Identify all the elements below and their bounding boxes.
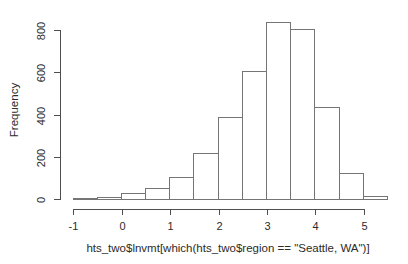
x-tick-label: 1 [167, 221, 173, 232]
histogram-figure: Frequency hts_two$lnvmt[which(hts_two$re… [0, 0, 408, 264]
histogram-bar [290, 29, 315, 200]
y-axis-line [60, 30, 61, 200]
y-tick-mark [54, 199, 60, 200]
histogram-bar [169, 177, 194, 200]
histogram-bar [73, 198, 98, 200]
histogram-bar [218, 117, 243, 200]
x-tick-mark [73, 209, 74, 215]
x-axis-title: hts_two$lnvmt[which(hts_two$region == "S… [86, 242, 369, 254]
y-tick-label: 600 [36, 63, 47, 81]
x-tick-label: 0 [119, 221, 125, 232]
histogram-bar [339, 173, 364, 200]
y-tick-label: 400 [36, 106, 47, 124]
y-tick-mark [54, 30, 60, 31]
histogram-bar [266, 22, 291, 200]
x-tick-mark [122, 209, 123, 215]
histogram-bar [193, 153, 219, 200]
y-tick-label: 200 [36, 148, 47, 166]
y-tick-mark [54, 115, 60, 116]
histogram-bar [97, 197, 122, 200]
y-tick-label: 0 [36, 196, 47, 202]
x-tick-label: 3 [264, 221, 270, 232]
x-tick-mark [315, 209, 316, 215]
x-tick-label: -1 [69, 221, 79, 232]
y-tick-mark [54, 72, 60, 73]
x-tick-label: 5 [361, 221, 367, 232]
x-tick-mark [364, 209, 365, 215]
x-tick-label: 4 [312, 221, 318, 232]
histogram-bar [242, 71, 267, 200]
histogram-bar [145, 188, 170, 200]
histogram-bar [314, 107, 340, 200]
histogram-bar [121, 193, 146, 200]
histogram-bar [363, 196, 388, 200]
x-tick-mark [267, 209, 268, 215]
x-tick-mark [170, 209, 171, 215]
x-tick-mark [219, 209, 220, 215]
y-tick-mark [54, 157, 60, 158]
x-tick-label: 2 [216, 221, 222, 232]
y-tick-label: 800 [36, 21, 47, 39]
y-axis-title: Frequency [8, 83, 20, 137]
